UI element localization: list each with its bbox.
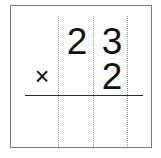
worksheet-frame: 2 3 × 2 — [10, 5, 152, 148]
vertical-sum-area: 2 3 × 2 — [11, 6, 151, 147]
multiplicand-ones-digit: 3 — [95, 23, 129, 60]
multiplication-sign-icon: × — [27, 61, 57, 91]
multiplier-ones-digit: 2 — [95, 58, 129, 95]
multiplication-worksheet: 2 3 × 2 — [0, 0, 161, 158]
multiplicand-tens-digit: 2 — [60, 23, 94, 60]
answer-line — [25, 95, 143, 96]
column-guide-line-1 — [58, 16, 59, 147]
